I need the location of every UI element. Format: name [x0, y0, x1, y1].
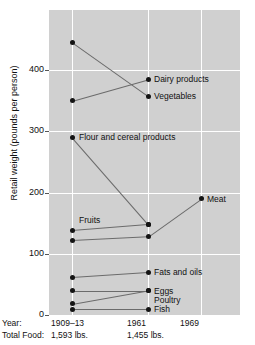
data-point-fish-0 — [70, 307, 75, 312]
series-label-fats-and-oils: Fats and oils — [154, 268, 202, 277]
total-food-value-1909–13: 1,593 lbs. — [51, 330, 88, 340]
series-line-dairy-products — [72, 79, 148, 101]
series-line-meat — [72, 237, 148, 242]
data-point-fruits-1 — [146, 222, 151, 227]
gridline-vertical-1909–13 — [72, 10, 73, 315]
y-tick-label-200: 200 — [0, 188, 44, 197]
data-point-poultry-0 — [70, 301, 75, 306]
data-point-meat-1 — [146, 234, 151, 239]
x-tick-label-1969: 1969 — [180, 318, 199, 328]
series-label-flour-and-cereal-products: Flour and cereal products — [79, 133, 175, 142]
x-tick-label-1909–13: 1909–13 — [51, 318, 84, 328]
series-line-flour-and-cereal-products — [71, 137, 148, 225]
gridline-horizontal-0 — [49, 315, 240, 316]
data-point-eggs-0 — [70, 288, 75, 293]
series-line-poultry — [72, 290, 148, 304]
series-line-meat — [148, 199, 202, 238]
data-point-fish-1 — [146, 307, 151, 312]
retail-weight-line-chart: Retail weight (pounds per person) 010020… — [0, 0, 255, 345]
data-point-fats-and-oils-0 — [70, 275, 75, 280]
series-label-fish: Fish — [154, 305, 170, 314]
total-food-value-1961: 1,455 lbs. — [127, 330, 164, 340]
data-point-fruits-0 — [70, 228, 75, 233]
series-label-poultry: Poultry — [154, 296, 180, 305]
series-label-meat: Meat — [207, 195, 226, 204]
y-tick-label-400: 400 — [0, 65, 44, 74]
year-row-header: Year: — [2, 318, 22, 328]
total-food-row-header: Total Food: — [2, 330, 44, 340]
data-point-poultry-1 — [146, 288, 151, 293]
series-line-eggs — [72, 291, 148, 292]
data-point-vegetables-1 — [146, 94, 151, 99]
data-point-dairy-products-1 — [146, 77, 151, 82]
series-line-fruits — [72, 224, 148, 231]
data-point-flour-and-cereal-products-0 — [70, 135, 75, 140]
x-tick-label-1961: 1961 — [127, 318, 146, 328]
series-label-fruits: Fruits — [79, 216, 100, 225]
series-line-fish — [72, 309, 148, 310]
gridline-horizontal-400 — [49, 70, 240, 71]
y-tick-label-100: 100 — [0, 249, 44, 258]
data-point-dairy-products-0 — [70, 98, 75, 103]
series-label-dairy-products: Dairy products — [154, 75, 209, 84]
plot-area: Dairy productsVegetablesFlour and cereal… — [49, 10, 240, 315]
series-label-vegetables: Vegetables — [154, 92, 196, 101]
data-point-meat-0 — [70, 238, 75, 243]
data-point-vegetables-0 — [70, 40, 75, 45]
data-point-meat-2 — [199, 196, 204, 201]
y-tick-label-300: 300 — [0, 126, 44, 135]
gridline-horizontal-100 — [49, 254, 240, 255]
series-line-fats-and-oils — [72, 272, 148, 278]
data-point-fats-and-oils-1 — [146, 270, 151, 275]
